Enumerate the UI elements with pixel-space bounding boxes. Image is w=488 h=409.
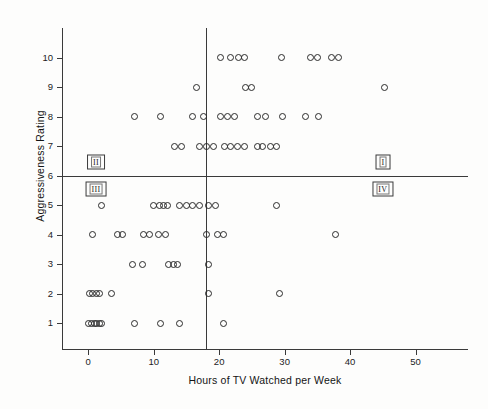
x-tick-20: 20 (219, 350, 220, 355)
data-point (262, 113, 269, 120)
y-tick-9: 9 (57, 87, 62, 88)
scatter-plot-figure: 12345678910 01020304050 IIIIIIIV Hours o… (0, 0, 488, 409)
data-point (278, 54, 285, 61)
data-point (193, 84, 200, 91)
data-point (220, 320, 227, 327)
data-point (254, 113, 261, 120)
data-point (241, 143, 248, 150)
data-point (89, 231, 96, 238)
x-tick-label-40: 40 (345, 356, 356, 368)
data-point (131, 320, 138, 327)
x-tick-30: 30 (285, 350, 286, 355)
data-point (176, 320, 183, 327)
x-tick-10: 10 (154, 350, 155, 355)
data-point (241, 54, 248, 61)
data-point (96, 290, 103, 297)
data-point (259, 143, 266, 150)
quadrant-III: III (86, 182, 107, 197)
data-point (210, 143, 217, 150)
y-tick-label-6: 6 (48, 169, 53, 182)
data-point (328, 54, 335, 61)
x-tick-40: 40 (350, 350, 351, 355)
data-point (174, 261, 181, 268)
data-point (315, 113, 322, 120)
quadrant-III-text: III (90, 184, 103, 195)
data-point (146, 231, 153, 238)
data-point (220, 231, 227, 238)
data-point (162, 231, 169, 238)
y-tick-label-2: 2 (48, 287, 53, 300)
x-tick-label-30: 30 (279, 356, 290, 368)
quadrant-II-text: II (91, 157, 101, 168)
quadrant-I: I (375, 155, 390, 170)
data-point (98, 202, 105, 209)
quadrant-II: II (87, 155, 105, 170)
y-tick-label-9: 9 (48, 80, 53, 93)
data-point (203, 231, 210, 238)
data-point (217, 54, 224, 61)
horizontal-median-line (62, 176, 468, 177)
data-point (335, 54, 342, 61)
x-tick-0: 0 (88, 350, 89, 355)
data-point (276, 290, 283, 297)
x-tick-label-50: 50 (410, 356, 421, 368)
data-point (227, 54, 234, 61)
y-tick-7: 7 (57, 146, 62, 147)
data-point (119, 231, 126, 238)
data-point (178, 143, 185, 150)
data-point (279, 113, 286, 120)
data-point (332, 231, 339, 238)
data-point (212, 202, 219, 209)
x-tick-50: 50 (416, 350, 417, 355)
data-point (314, 54, 321, 61)
y-tick-label-5: 5 (48, 198, 53, 211)
data-point (189, 113, 196, 120)
y-tick-8: 8 (57, 117, 62, 118)
y-axis-title: Aggressiveness Rating (34, 46, 46, 286)
y-tick-10: 10 (57, 58, 62, 59)
quadrant-IV-text: IV (376, 184, 389, 195)
data-point (217, 113, 224, 120)
data-point (200, 113, 207, 120)
data-point (129, 261, 136, 268)
data-point (205, 261, 212, 268)
y-tick-4: 4 (57, 235, 62, 236)
data-point (157, 113, 164, 120)
data-point (307, 54, 314, 61)
plot-area: 12345678910 01020304050 IIIIIIIV (62, 28, 468, 350)
data-point (205, 290, 212, 297)
data-point (196, 143, 203, 150)
data-point (248, 84, 255, 91)
data-point (164, 202, 171, 209)
data-point (98, 320, 105, 327)
x-tick-label-10: 10 (148, 356, 159, 368)
data-point (157, 320, 164, 327)
y-tick-2: 2 (57, 294, 62, 295)
x-axis-title: Hours of TV Watched per Week (62, 374, 468, 386)
data-point (203, 143, 210, 150)
data-point (381, 84, 388, 91)
quadrant-I-text: I (379, 157, 386, 168)
data-point (302, 113, 309, 120)
data-point (273, 143, 280, 150)
x-tick-label-20: 20 (214, 356, 225, 368)
y-tick-3: 3 (57, 264, 62, 265)
data-point (131, 113, 138, 120)
data-point (139, 261, 146, 268)
data-point (273, 202, 280, 209)
y-tick-label-4: 4 (48, 228, 53, 241)
y-tick-5: 5 (57, 205, 62, 206)
data-point (108, 290, 115, 297)
x-axis-line (62, 349, 468, 350)
quadrant-IV: IV (372, 182, 393, 197)
y-tick-label-8: 8 (48, 110, 53, 123)
y-axis-line (62, 28, 63, 350)
y-tick-1: 1 (57, 323, 62, 324)
data-point (196, 202, 203, 209)
data-point (231, 113, 238, 120)
data-point (234, 143, 241, 150)
y-tick-label-7: 7 (48, 139, 53, 152)
y-tick-label-3: 3 (48, 257, 53, 270)
vertical-median-line (206, 28, 207, 350)
x-tick-label-0: 0 (86, 356, 91, 368)
